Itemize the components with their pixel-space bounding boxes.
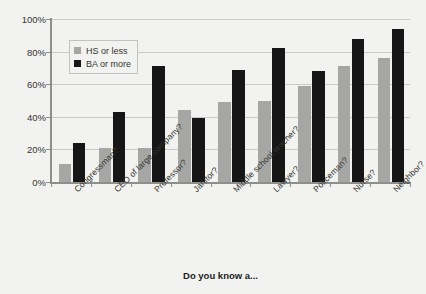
bar-ba-or-more (392, 29, 405, 182)
y-axis-tick-label: 20% (0, 144, 50, 155)
x-axis-tick-mark (290, 182, 291, 187)
x-axis-tick-mark (91, 182, 92, 187)
x-axis-tick-mark (250, 182, 251, 187)
x-axis-tick-mark (211, 182, 212, 187)
y-axis-tick-label: 60% (0, 79, 50, 90)
bar-hs-or-less (378, 58, 391, 182)
y-axis-tick-label: 80% (0, 46, 50, 57)
legend: HS or less BA or more (69, 40, 138, 74)
bar-ba-or-more (192, 118, 205, 182)
x-axis-tick-mark (51, 182, 52, 187)
bar-hs-or-less (298, 86, 311, 182)
legend-swatch-hs-or-less (74, 47, 81, 54)
legend-item-hs-or-less: HS or less (74, 44, 131, 57)
x-axis-tick-mark (410, 182, 411, 187)
x-axis-tick-mark (330, 182, 331, 187)
y-axis-tick-label: 100% (0, 14, 50, 25)
gridline (51, 19, 410, 20)
x-axis-tick-mark (370, 182, 371, 187)
y-axis-tick-label: 40% (0, 111, 50, 122)
legend-label-ba-or-more: BA or more (86, 59, 131, 69)
bar-ba-or-more (312, 71, 325, 182)
bar-hs-or-less (218, 102, 231, 182)
y-axis-line (50, 18, 52, 183)
bar-hs-or-less (59, 164, 72, 182)
x-axis-tick-mark (171, 182, 172, 187)
bar-ba-or-more (352, 39, 365, 182)
x-axis-title-text: Do you know a... (165, 270, 258, 281)
bar-ba-or-more (232, 70, 245, 182)
legend-label-hs-or-less: HS or less (86, 46, 128, 56)
bar-ba-or-more (152, 66, 165, 182)
legend-item-ba-or-more: BA or more (74, 57, 131, 70)
x-axis-tick-mark (131, 182, 132, 187)
bar-ba-or-more (272, 48, 285, 182)
y-axis-tick-label: 0% (0, 177, 50, 188)
x-axis-title: Do you know a... (0, 270, 423, 281)
legend-swatch-ba-or-more (74, 60, 81, 67)
